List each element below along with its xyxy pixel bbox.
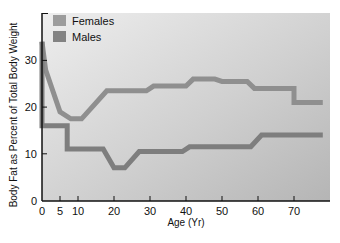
- x-tick-label: 30: [144, 205, 156, 217]
- x-tick-label: 70: [288, 205, 300, 217]
- x-axis-title: Age (Yr): [167, 217, 204, 228]
- x-tick-label: 5: [57, 205, 63, 217]
- x-tick-label: 40: [180, 205, 192, 217]
- x-tick-label: 60: [252, 205, 264, 217]
- legend-label-females: Females: [72, 15, 115, 27]
- legend-swatch-males: [53, 31, 66, 42]
- y-tick-label: 0: [31, 195, 37, 207]
- y-axis-title: Body Fat as Percent of Total Body Weight: [8, 22, 19, 207]
- y-tick-label: 20: [25, 101, 37, 113]
- y-tick-label: 10: [25, 148, 37, 160]
- body-fat-chart: 0102030 0510203040506070 Females Males A…: [0, 0, 340, 243]
- legend-label-males: Males: [72, 31, 102, 43]
- x-tick-label: 50: [216, 205, 228, 217]
- x-tick-label: 20: [108, 205, 120, 217]
- x-tick-label: 10: [72, 205, 84, 217]
- legend-swatch-females: [53, 15, 66, 26]
- x-tick-label: 0: [39, 205, 45, 217]
- y-tick-label: 30: [25, 54, 37, 66]
